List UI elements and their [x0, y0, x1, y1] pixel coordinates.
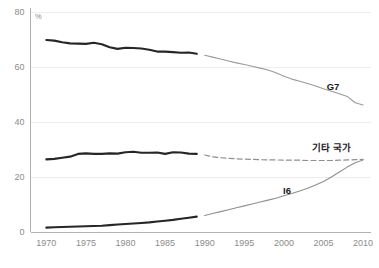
x-tick-label-2010: 2010 — [353, 238, 373, 248]
x-tick-label-1985: 1985 — [155, 238, 175, 248]
x-tick-label-1970: 1970 — [36, 238, 56, 248]
x-tick-label-1995: 1995 — [234, 238, 254, 248]
line-chart: 020406080 197019751980198519901995200020… — [0, 0, 379, 268]
x-tick-label-1975: 1975 — [76, 238, 96, 248]
x-tick-label-1990: 1990 — [195, 238, 215, 248]
y-axis-unit-label: % — [35, 12, 42, 21]
series-label-I6: I6 — [283, 185, 291, 196]
y-tick-label-0: 0 — [19, 227, 24, 237]
y-tick-label-20: 20 — [14, 172, 24, 182]
x-tick-label-2005: 2005 — [313, 238, 333, 248]
y-tick-label-60: 60 — [14, 62, 24, 72]
y-tick-label-40: 40 — [14, 117, 24, 127]
x-axis-tick-labels: 197019751980198519901995200020052010 — [36, 238, 373, 248]
series-label-기타 국가: 기타 국가 — [312, 142, 351, 153]
x-tick-label-1980: 1980 — [116, 238, 136, 248]
chart-container: 020406080 197019751980198519901995200020… — [0, 0, 379, 268]
series-label-G7: G7 — [327, 81, 340, 92]
y-tick-label-80: 80 — [14, 7, 24, 17]
x-tick-label-2000: 2000 — [274, 238, 294, 248]
